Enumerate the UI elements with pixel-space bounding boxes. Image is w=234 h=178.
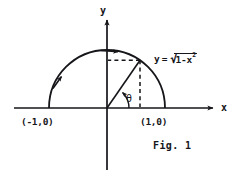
figure-drawing [0, 0, 234, 178]
axis-label-x: x [221, 103, 227, 113]
axis-label-y: y [100, 6, 106, 16]
equation-radicand: 1-x2 [174, 53, 197, 65]
equation-radicand-exponent: 2 [192, 51, 196, 59]
equation-radicand-base: 1-x [175, 54, 192, 65]
point-label-right-intercept: (1,0) [140, 117, 167, 127]
theta-angle-label: θ [126, 94, 132, 104]
equation-equals-sign: = [162, 53, 168, 64]
figure-container: y x (-1,0) (1,0) θ y=√1-x2 Fig. 1 [0, 0, 234, 178]
equation-lhs: y [154, 53, 160, 64]
radius-line [107, 60, 140, 108]
curve-equation-label: y=√1-x2 [154, 52, 197, 64]
point-label-left-intercept: (-1,0) [21, 117, 54, 127]
figure-caption: Fig. 1 [153, 141, 192, 151]
